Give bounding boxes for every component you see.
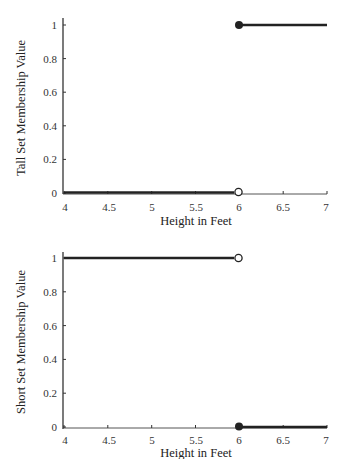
figure-canvas: 0 0.2 0.4 0.6 0.8 1 4 4.5 5 5.5 6 6.5 7 … (0, 0, 340, 459)
filled-circle-marker (235, 423, 243, 431)
open-circle-marker (235, 188, 242, 195)
x-tick-label: 4 (62, 201, 68, 213)
x-tick-label: 7 (323, 434, 329, 446)
x-tick-label: 5 (149, 201, 155, 213)
y-tick-label: 0 (52, 187, 58, 199)
y-tick-label: 0.2 (43, 387, 57, 399)
x-tick-label: 5 (149, 434, 155, 446)
y-tick-label: 0.6 (43, 320, 57, 332)
y-tick-label: 0.2 (43, 153, 57, 165)
x-tick-label: 5.5 (189, 201, 203, 213)
y-tick-label: 0 (52, 421, 58, 433)
x-tick-label: 6.5 (276, 201, 290, 213)
open-circle-marker (235, 254, 242, 261)
x-tick-label: 4 (62, 434, 68, 446)
x-tick-label: 4.5 (102, 201, 116, 213)
x-tick-label: 6 (236, 201, 242, 213)
y-tick-label: 0.4 (43, 353, 57, 365)
x-tick-label: 6 (236, 434, 242, 446)
y-tick-label: 1 (52, 19, 58, 31)
x-axis-title: Height in Feet (160, 214, 232, 228)
tall-membership-chart: 0 0.2 0.4 0.6 0.8 1 4 4.5 5 5.5 6 6.5 7 … (14, 18, 329, 228)
x-tick-label: 4.5 (102, 434, 116, 446)
y-axis-title: Short Set Membership Value (14, 270, 28, 414)
short-membership-chart: 0 0.2 0.4 0.6 0.8 1 4 4.5 5 5.5 6 6.5 7 … (14, 252, 329, 459)
y-tick-label: 1 (52, 252, 58, 264)
x-tick-label: 5.5 (189, 434, 203, 446)
x-axis-title: Height in Feet (160, 446, 232, 459)
x-tick-label: 7 (323, 201, 329, 213)
filled-circle-marker (235, 21, 243, 29)
y-tick-label: 0.6 (43, 86, 57, 98)
y-tick-label: 0.4 (43, 120, 57, 132)
y-tick-label: 0.8 (43, 286, 57, 298)
y-axis-title: Tall Set Membership Value (14, 40, 28, 176)
y-tick-label: 0.8 (43, 53, 57, 65)
x-tick-label: 6.5 (276, 434, 290, 446)
